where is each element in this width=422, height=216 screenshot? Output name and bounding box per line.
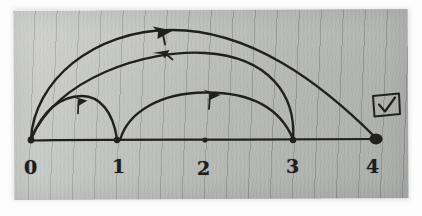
node-2-dot: [202, 137, 207, 142]
edge-0-to-1-arrowhead: [73, 97, 88, 107]
edge-0-to-1-arrow-tail: [78, 101, 79, 114]
edge-1-to-3-arrow-tail: [209, 96, 210, 110]
node-label-1: 1: [112, 157, 125, 176]
node-label-3: 3: [286, 157, 299, 176]
node-3-dot: [290, 137, 296, 143]
hand-drawn-ink-layer: [0, 0, 422, 216]
node-label-4: 4: [366, 157, 379, 176]
node-label-0: 0: [24, 158, 37, 177]
node-1-dot: [114, 137, 120, 143]
edge-1-to-3-arc: [120, 92, 293, 140]
edge-1-to-3-arrowhead: [204, 90, 221, 101]
screenshot-canvas: 0 1 2 3 4: [0, 0, 422, 216]
node-4-dot: [369, 134, 382, 145]
node-label-2: 2: [197, 159, 210, 178]
node-0-dot: [28, 137, 35, 144]
check-icon: [379, 98, 395, 112]
